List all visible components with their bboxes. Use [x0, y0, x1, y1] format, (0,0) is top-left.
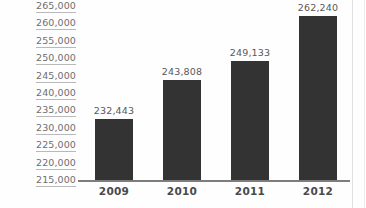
y-axis-tick-label: 245,000 [10, 71, 76, 83]
y-axis-tick-text: 230,000 [36, 123, 76, 135]
y-axis-tick-text: 240,000 [36, 88, 76, 100]
bar-value-label: 232,443 [74, 105, 154, 116]
bar-value-label: 262,240 [278, 2, 358, 13]
y-axis-tick-text: 260,000 [36, 18, 76, 30]
x-axis: 2009201020112012 [80, 185, 352, 205]
y-axis-tick-label: 255,000 [10, 36, 76, 48]
bar[interactable] [163, 80, 201, 180]
x-axis-category-label: 2012 [286, 185, 350, 197]
bar[interactable] [299, 16, 337, 180]
bar-group: 249,133 [218, 6, 282, 180]
y-axis-tick-label: 220,000 [10, 158, 76, 170]
x-axis-category-label: 2010 [150, 185, 214, 197]
x-axis-category-label: 2011 [218, 185, 282, 197]
bar-value-label: 249,133 [210, 47, 290, 58]
y-axis-tick-text: 265,000 [36, 1, 76, 13]
y-axis-tick-text: 225,000 [36, 140, 76, 152]
plot-area: 232,443243,808249,133262,240 [80, 6, 352, 180]
y-axis-tick-label: 250,000 [10, 53, 76, 65]
y-axis-tick-text: 220,000 [36, 158, 76, 170]
page-border-rule-outer [364, 0, 365, 208]
y-axis-tick-text: 250,000 [36, 53, 76, 65]
x-axis-category-label: 2009 [82, 185, 146, 197]
bar-value-label: 243,808 [142, 66, 222, 77]
y-axis-tick-label: 235,000 [10, 105, 76, 117]
y-axis-tick-text: 215,000 [36, 175, 76, 187]
bar-group: 232,443 [82, 6, 146, 180]
bar-chart: 265,000260,000255,000250,000245,000240,0… [0, 0, 366, 208]
y-axis-tick-label: 225,000 [10, 140, 76, 152]
y-axis-tick-label: 230,000 [10, 123, 76, 135]
y-axis-tick-label: 240,000 [10, 88, 76, 100]
page-border-rule [352, 0, 353, 208]
x-axis-line [78, 180, 350, 182]
y-axis-tick-label: 215,000 [10, 175, 76, 187]
y-axis: 265,000260,000255,000250,000245,000240,0… [10, 6, 76, 182]
bar[interactable] [95, 119, 133, 180]
y-axis-tick-label: 265,000 [10, 1, 76, 13]
bar-group: 243,808 [150, 6, 214, 180]
y-axis-tick-text: 235,000 [36, 105, 76, 117]
y-axis-tick-text: 245,000 [36, 71, 76, 83]
bar[interactable] [231, 61, 269, 180]
bar-group: 262,240 [286, 6, 350, 180]
y-axis-tick-label: 260,000 [10, 18, 76, 30]
y-axis-tick-text: 255,000 [36, 36, 76, 48]
